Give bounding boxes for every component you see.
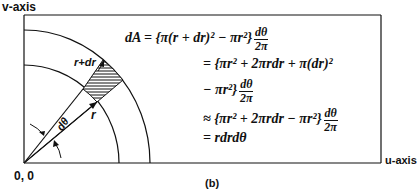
equation-line-4-text: ≈ {πr² + 2πrdr − πr²} [203, 111, 322, 126]
fraction-dtheta-over-2pi: dθ2π [239, 78, 253, 104]
equation-line-3-text: − πr²} [203, 82, 237, 97]
dtheta-upper-arrowhead-icon [39, 131, 45, 136]
r-plus-dr-arrowhead-icon [99, 60, 104, 67]
fraction-dtheta-over-2pi: dθ2π [324, 107, 338, 133]
v-axis-label: v-axis [2, 0, 36, 14]
figure-caption: (b) [205, 177, 219, 189]
u-axis-label: u-axis [385, 154, 417, 166]
r-label: r [91, 108, 96, 122]
dtheta-lower-arrowhead-icon [53, 140, 59, 147]
equation-line-2: = {πr² + 2πrdr + π(dr)² [203, 57, 333, 71]
fraction-dtheta-over-2pi: dθ2π [254, 26, 268, 52]
equation-line-1-text: dA = {π(r + dr)² − πr²} [125, 30, 252, 45]
r-plus-dr-label: r+dr [74, 56, 96, 68]
equation-line-5: = rdrdθ [203, 131, 247, 145]
origin-label: 0, 0 [14, 169, 34, 183]
equation-line-1: dA = {π(r + dr)² − πr²}dθ2π [125, 26, 268, 52]
equation-line-3: − πr²}dθ2π [203, 78, 253, 104]
